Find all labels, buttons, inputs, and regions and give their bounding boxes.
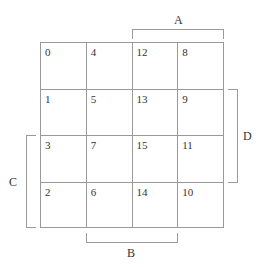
cell-13: 13	[132, 89, 178, 136]
cell-15: 15	[132, 135, 178, 182]
bracket-b	[86, 233, 178, 243]
cell-9: 9	[177, 89, 223, 136]
cell-14: 14	[132, 182, 178, 229]
cell-0: 0	[40, 42, 86, 89]
bracket-d	[228, 89, 238, 183]
label-c: C	[9, 176, 17, 188]
kmap-grid: 0 4 12 8 1 5 13 9 3 7 15 11 2 6 14 10	[40, 42, 224, 228]
label-a: A	[174, 14, 183, 26]
cell-10: 10	[177, 182, 223, 229]
grid-row-3: 3 7 15 11	[40, 135, 223, 182]
grid-row-4: 2 6 14 10	[40, 182, 223, 229]
cell-11: 11	[177, 135, 223, 182]
bracket-a	[132, 29, 224, 39]
bracket-c	[26, 135, 36, 228]
grid-row-2: 1 5 13 9	[40, 89, 223, 136]
label-d: D	[243, 130, 252, 142]
cell-6: 6	[86, 182, 132, 229]
cell-8: 8	[177, 42, 223, 89]
grid-row-1: 0 4 12 8	[40, 42, 223, 89]
cell-7: 7	[86, 135, 132, 182]
cell-12: 12	[132, 42, 178, 89]
cell-3: 3	[40, 135, 86, 182]
cell-1: 1	[40, 89, 86, 136]
cell-2: 2	[40, 182, 86, 229]
cell-5: 5	[86, 89, 132, 136]
cell-4: 4	[86, 42, 132, 89]
label-b: B	[127, 247, 135, 259]
